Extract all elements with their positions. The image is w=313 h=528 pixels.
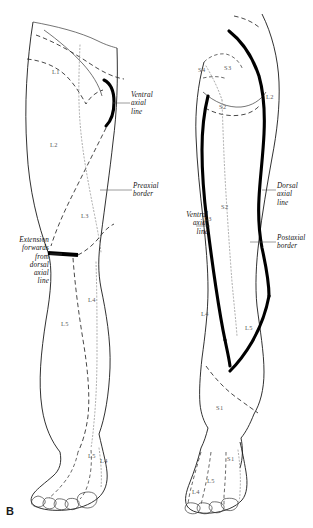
dermatome-right-L2: L2 xyxy=(266,93,274,100)
dermatome-right-S1-upper: S1 xyxy=(216,404,224,411)
dermatome-right-S3: S3 xyxy=(224,64,232,71)
right-S3-boundary xyxy=(203,77,227,79)
left-inguinal-dashed xyxy=(36,35,124,79)
left-groin-curve xyxy=(44,30,102,96)
left-L2-L3-boundary xyxy=(51,128,106,246)
dermatome-left-L4: L4 xyxy=(88,296,96,303)
right-foot-lateral-dotted xyxy=(238,450,240,504)
right-ventral-axial-line-label: Ventral axial line xyxy=(160,211,208,236)
right-postaxial-border-label: Postaxial border xyxy=(277,234,313,251)
left-lowerleg-midline-dotted xyxy=(91,262,97,448)
left-L4-L5-boundary xyxy=(73,258,89,452)
dermatome-right-L5: L5 xyxy=(245,324,253,331)
left-extension-forwards-label: Extension forwards from dorsal axial lin… xyxy=(2,236,49,286)
left-preaxial-border-label: Preaxial border xyxy=(133,182,181,199)
right-leg-posterior xyxy=(185,14,279,514)
dermatome-right-L3: L3 xyxy=(204,215,212,222)
panel-label-b: B xyxy=(6,505,14,517)
dermatome-right-foot-L5: L5 xyxy=(207,477,215,484)
left-ventral-axial-line-label: Ventral axial line xyxy=(131,91,179,116)
dermatome-left-foot-L4: L4 xyxy=(100,457,108,464)
left-foot-L5-boundary xyxy=(49,452,78,498)
right-thigh-midline-dotted xyxy=(222,100,237,336)
right-leg-medial-outline xyxy=(196,62,208,428)
right-dorsal-axial-line xyxy=(229,31,269,296)
dermatome-right-S2-upper: S2 xyxy=(219,103,227,110)
right-calf-medial-outline xyxy=(201,428,208,448)
dermatome-right-S4: S4 xyxy=(198,66,206,73)
right-toe-1 xyxy=(185,503,200,514)
left-hip-crease xyxy=(33,22,117,48)
right-calf-lateral-outline xyxy=(241,414,254,438)
dermatome-right-S2-mid: S2 xyxy=(221,203,229,210)
dermatome-right-S1-foot: S1 xyxy=(227,455,235,462)
right-foot-L4-boundary xyxy=(188,452,201,505)
dermatome-right-L4: L4 xyxy=(201,310,209,317)
right-gluteal-fold-dashed xyxy=(234,16,260,28)
dermatome-figure: Ventral axial line Preaxial border Exten… xyxy=(0,0,313,528)
right-axial-crossing-medial xyxy=(225,340,230,366)
left-thigh-midline-dotted xyxy=(79,45,101,252)
right-foot-S1-boundary xyxy=(224,452,226,505)
dermatome-right-foot-L4: L4 xyxy=(192,488,200,495)
left-knee-boundary-dashed xyxy=(78,224,114,255)
dermatome-left-foot-L5: L5 xyxy=(88,452,96,459)
right-dorsal-axial-line-label: Dorsal axial line xyxy=(277,182,313,207)
right-gluteal-crease xyxy=(203,92,266,107)
dermatome-left-L2: L2 xyxy=(50,141,58,148)
dermatome-left-L3: L3 xyxy=(81,212,89,219)
dermatome-left-L5: L5 xyxy=(61,320,69,327)
left-foot-midline-dotted xyxy=(99,448,101,488)
left-great-toe xyxy=(77,492,97,508)
left-L1-L2-boundary xyxy=(27,59,103,104)
dermatome-left-L1: L1 xyxy=(52,68,60,75)
right-S1-boundary xyxy=(206,366,258,413)
